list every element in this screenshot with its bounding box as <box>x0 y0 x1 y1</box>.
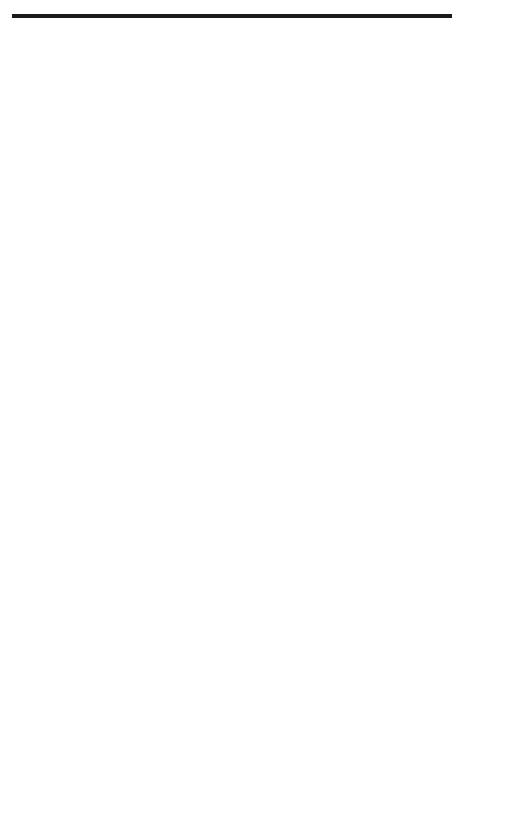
waveform-diagram <box>0 0 531 831</box>
